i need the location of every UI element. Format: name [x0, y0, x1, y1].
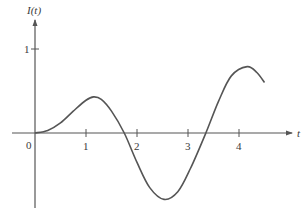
x-tick-label: 3	[185, 140, 191, 152]
x-tick-label: 2	[134, 140, 140, 152]
x-axis-label: t	[297, 127, 301, 139]
current-vs-time-chart: 1234 1 t I(t) 0	[0, 0, 305, 215]
origin-label: 0	[26, 139, 32, 151]
y-ticks: 1	[24, 43, 39, 55]
y-tick-label: 1	[24, 43, 30, 55]
x-tick-label: 1	[83, 140, 89, 152]
x-tick-label: 4	[236, 140, 242, 152]
y-axis-label: I(t)	[26, 4, 41, 17]
